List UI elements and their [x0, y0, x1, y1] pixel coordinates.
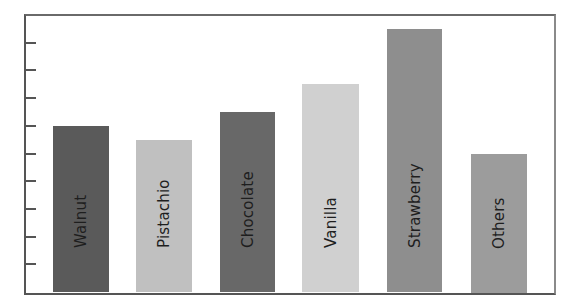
- bar-vanilla: Vanilla: [302, 84, 359, 292]
- bar-label: Chocolate: [239, 171, 257, 248]
- y-axis-tick: [25, 42, 36, 44]
- y-axis-tick: [25, 180, 36, 182]
- bar-others: Others: [471, 154, 527, 293]
- bar-chart: WalnutPistachioChocolateVanillaStrawberr…: [0, 0, 561, 307]
- bar-label: Vanilla: [322, 197, 340, 248]
- y-axis-tick: [25, 153, 36, 155]
- bar-pistachio: Pistachio: [136, 140, 192, 292]
- y-axis-tick: [25, 208, 36, 210]
- bar-label: Others: [490, 197, 508, 249]
- bar-label: Strawberry: [406, 163, 424, 248]
- y-axis-tick: [25, 69, 36, 71]
- y-axis-tick: [25, 125, 36, 127]
- bar-label: Walnut: [72, 195, 90, 248]
- bar-chocolate: Chocolate: [220, 112, 275, 292]
- bar-walnut: Walnut: [53, 126, 109, 292]
- y-axis-tick: [25, 97, 36, 99]
- y-axis-tick: [25, 263, 36, 265]
- bar-label: Pistachio: [155, 179, 173, 248]
- bar-strawberry: Strawberry: [387, 29, 442, 292]
- y-axis-tick: [25, 236, 36, 238]
